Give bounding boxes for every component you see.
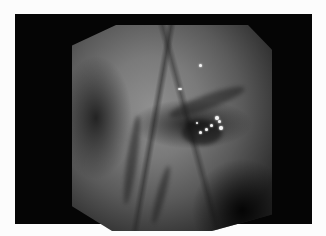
specular-highlight bbox=[199, 64, 202, 67]
endoscopic-image bbox=[72, 25, 272, 231]
tissue-fold bbox=[182, 120, 222, 145]
specular-highlight bbox=[219, 126, 223, 130]
specular-highlight bbox=[210, 124, 213, 127]
image-frame bbox=[15, 14, 312, 224]
specular-highlight bbox=[218, 120, 221, 123]
specular-highlight bbox=[199, 131, 202, 134]
tissue-fold bbox=[149, 165, 172, 225]
specular-highlight bbox=[178, 88, 182, 90]
specular-highlight bbox=[196, 122, 198, 124]
tissue-fold bbox=[121, 115, 143, 206]
specular-highlight bbox=[205, 128, 208, 131]
